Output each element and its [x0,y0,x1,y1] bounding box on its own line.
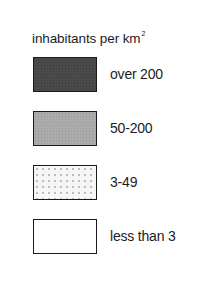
legend-swatch-less-than-3 [33,219,97,254]
legend-swatch-3-49 [33,165,97,200]
legend-title-text: inhabitants per km [32,31,141,46]
legend-title: inhabitants per km2 [32,30,145,46]
legend-label-less-than-3: less than 3 [110,228,176,244]
legend-label-50-200: 50-200 [110,120,152,136]
legend-swatch-50-200 [33,111,97,146]
legend-title-superscript: 2 [142,30,146,37]
legend-swatch-over-200 [33,57,97,92]
legend-label-3-49: 3-49 [110,174,137,190]
legend-label-over-200: over 200 [110,66,163,82]
